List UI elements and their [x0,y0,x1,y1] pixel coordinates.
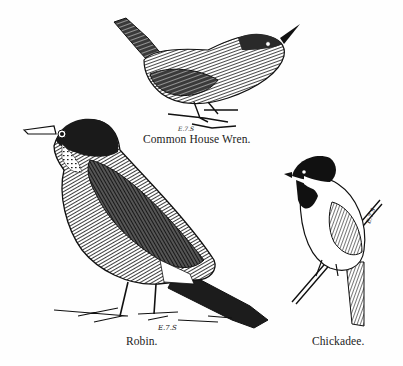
caption-chickadee: Chickadee. [312,335,364,347]
robin-illustration: E.7.S [18,110,273,332]
caption-robin: Robin. [126,335,158,347]
chickadee-illustration: E.7.S [282,152,392,328]
svg-text:E.7.S: E.7.S [157,324,177,332]
svg-text:E.7.S: E.7.S [364,207,376,225]
illustration-plate: E.7.S Common House Wren. [0,0,403,366]
